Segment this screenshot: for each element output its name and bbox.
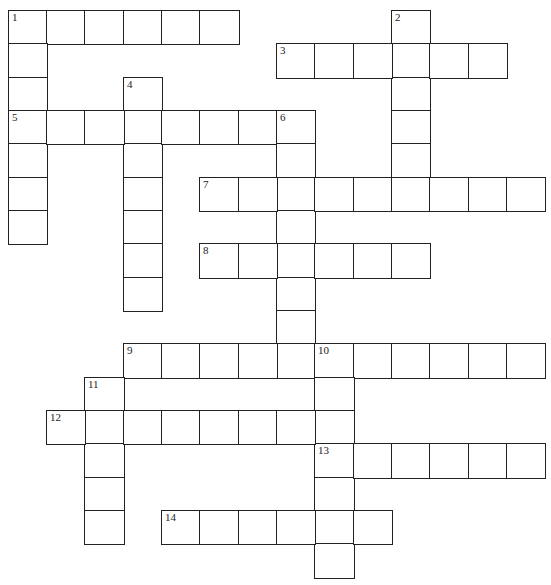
crossword-cell[interactable]	[46, 110, 86, 145]
crossword-cell[interactable]	[314, 43, 355, 79]
crossword-cell[interactable]	[46, 10, 86, 45]
crossword-cell[interactable]	[199, 510, 240, 545]
crossword-cell[interactable]	[238, 410, 278, 445]
crossword-cell[interactable]	[238, 343, 278, 379]
crossword-cell[interactable]	[8, 143, 48, 179]
crossword-cell[interactable]	[391, 110, 431, 145]
crossword-cell[interactable]	[314, 243, 355, 279]
crossword-cell[interactable]	[391, 243, 431, 279]
crossword-cell[interactable]	[238, 243, 278, 279]
crossword-cell[interactable]	[391, 443, 431, 479]
crossword-cell[interactable]	[199, 110, 240, 145]
crossword-cell[interactable]	[353, 243, 393, 279]
crossword-cell[interactable]	[391, 43, 431, 79]
crossword-cell[interactable]	[314, 510, 355, 545]
crossword-cell[interactable]	[391, 77, 431, 112]
crossword-cell[interactable]	[123, 10, 163, 45]
crossword-cell[interactable]	[276, 210, 316, 245]
crossword-cell[interactable]	[238, 510, 278, 545]
crossword-cell[interactable]	[314, 377, 355, 412]
crossword-cell[interactable]	[238, 177, 278, 212]
crossword-cell[interactable]	[123, 110, 163, 145]
crossword-cell[interactable]	[123, 277, 163, 312]
crossword-cell[interactable]	[314, 410, 355, 445]
crossword-cell[interactable]	[123, 243, 163, 279]
crossword-cell[interactable]: 13	[314, 443, 355, 479]
crossword-cell[interactable]	[276, 310, 316, 345]
clue-number: 8	[203, 245, 209, 256]
crossword-cell[interactable]: 9	[123, 343, 163, 379]
crossword-cell[interactable]	[84, 510, 125, 545]
crossword-cell[interactable]	[314, 543, 355, 579]
crossword-cell[interactable]	[276, 277, 316, 312]
crossword-cell[interactable]	[506, 177, 546, 212]
crossword-cell[interactable]	[8, 177, 48, 212]
crossword-cell[interactable]	[429, 43, 470, 79]
crossword-cell[interactable]	[276, 177, 316, 212]
crossword-cell[interactable]	[468, 177, 508, 212]
clue-number: 3	[280, 45, 286, 56]
crossword-cell[interactable]: 3	[276, 43, 316, 79]
crossword-cell[interactable]	[8, 77, 48, 112]
clue-number: 9	[127, 345, 133, 356]
clue-number: 10	[318, 345, 329, 356]
crossword-cell[interactable]	[161, 10, 201, 45]
crossword-cell[interactable]	[276, 410, 316, 445]
crossword-cell[interactable]	[199, 10, 240, 45]
crossword-cell[interactable]	[353, 443, 393, 479]
crossword-cell[interactable]	[314, 477, 355, 512]
crossword-cell[interactable]	[353, 177, 393, 212]
crossword-cell[interactable]	[506, 343, 546, 379]
crossword-cell[interactable]	[391, 343, 431, 379]
crossword-cell[interactable]	[391, 177, 431, 212]
crossword-cell[interactable]: 8	[199, 243, 240, 279]
crossword-cell[interactable]	[84, 110, 125, 145]
crossword-cell[interactable]	[199, 410, 240, 445]
crossword-cell[interactable]	[468, 443, 508, 479]
crossword-cell[interactable]	[429, 443, 470, 479]
crossword-cell[interactable]	[84, 10, 125, 45]
crossword-cell[interactable]	[84, 443, 125, 479]
crossword-cell[interactable]	[429, 177, 470, 212]
crossword-cell[interactable]: 1	[8, 10, 48, 45]
crossword-cell[interactable]	[353, 510, 393, 545]
crossword-cell[interactable]: 10	[314, 343, 355, 379]
clue-number: 7	[203, 179, 209, 190]
crossword-cell[interactable]	[161, 410, 201, 445]
crossword-cell[interactable]	[468, 343, 508, 379]
crossword-cell[interactable]: 2	[391, 10, 431, 45]
crossword-cell[interactable]	[123, 177, 163, 212]
crossword-cell[interactable]: 11	[84, 377, 125, 412]
crossword-cell[interactable]	[468, 43, 508, 79]
crossword-cell[interactable]: 4	[123, 77, 163, 112]
crossword-grid: 1523467891013111214	[0, 0, 551, 585]
crossword-cell[interactable]	[161, 110, 201, 145]
crossword-cell[interactable]	[161, 343, 201, 379]
crossword-cell[interactable]	[8, 43, 48, 79]
clue-number: 12	[50, 412, 61, 423]
crossword-cell[interactable]	[276, 243, 316, 279]
crossword-cell[interactable]	[276, 343, 316, 379]
crossword-cell[interactable]	[391, 143, 431, 179]
crossword-cell[interactable]: 14	[161, 510, 201, 545]
crossword-cell[interactable]	[429, 343, 470, 379]
crossword-cell[interactable]	[353, 43, 393, 79]
crossword-cell[interactable]	[123, 410, 163, 445]
crossword-cell[interactable]	[84, 410, 125, 445]
crossword-cell[interactable]	[84, 477, 125, 512]
crossword-cell[interactable]	[276, 143, 316, 179]
crossword-cell[interactable]: 7	[199, 177, 240, 212]
crossword-cell[interactable]	[123, 143, 163, 179]
crossword-cell[interactable]	[8, 210, 48, 245]
crossword-cell[interactable]	[276, 510, 316, 545]
crossword-cell[interactable]	[238, 110, 278, 145]
crossword-cell[interactable]	[506, 443, 546, 479]
crossword-cell[interactable]: 5	[8, 110, 48, 145]
clue-number: 11	[88, 379, 99, 390]
crossword-cell[interactable]	[314, 177, 355, 212]
crossword-cell[interactable]	[353, 343, 393, 379]
crossword-cell[interactable]	[199, 343, 240, 379]
crossword-cell[interactable]: 12	[46, 410, 86, 445]
crossword-cell[interactable]	[123, 210, 163, 245]
crossword-cell[interactable]: 6	[276, 110, 316, 145]
